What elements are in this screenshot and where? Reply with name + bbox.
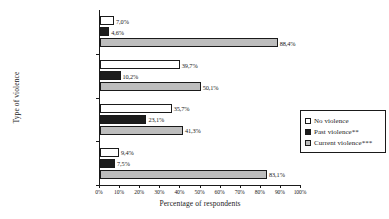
y-tick — [96, 141, 99, 142]
x-tick — [99, 185, 100, 188]
x-tick — [240, 185, 241, 188]
legend-label-current-violence: Current violence*** — [314, 139, 372, 147]
bar-value-label: 39,7% — [182, 61, 198, 70]
x-tick — [300, 185, 301, 188]
x-tick — [139, 185, 140, 188]
plot-area: 0%10%20%30%40%50%60%70%80%90%100% 7,0%4,… — [99, 10, 300, 185]
x-tick — [280, 185, 281, 188]
y-axis-title: Type of violence — [12, 38, 21, 158]
x-axis-title: Percentage of respondents — [99, 199, 301, 208]
legend-swatch-past-violence — [305, 129, 311, 135]
bar — [100, 115, 146, 124]
bar — [100, 104, 172, 113]
x-tick — [220, 185, 221, 188]
legend-label-no-violence: No violence — [314, 117, 349, 125]
bar-value-label: 41,3% — [185, 126, 201, 135]
legend-swatch-current-violence — [305, 140, 311, 146]
y-tick — [96, 185, 99, 186]
bar — [100, 159, 115, 168]
bar-value-label: 35,7% — [174, 104, 190, 113]
bar — [100, 16, 114, 25]
bar-value-label: 83,1% — [269, 170, 285, 179]
x-tick — [179, 185, 180, 188]
bar-chart-figure: Type of violence Percentage of responden… — [0, 0, 389, 219]
bar — [100, 71, 121, 80]
bar-value-label: 4,6% — [111, 28, 124, 37]
legend-item-current-violence: Current violence*** — [305, 137, 382, 148]
bar — [100, 82, 201, 91]
bar-value-label: 88,4% — [280, 39, 296, 48]
bar — [100, 126, 183, 135]
bar — [100, 60, 180, 69]
legend-item-no-violence: No violence — [305, 115, 382, 126]
bar — [100, 38, 278, 47]
legend-label-past-violence: Past violence** — [314, 128, 359, 136]
bar-value-label: 7,0% — [116, 17, 129, 26]
bar — [100, 148, 119, 157]
bar-value-label: 10,2% — [123, 72, 139, 81]
bar-value-label: 50,1% — [203, 83, 219, 92]
x-tick — [159, 185, 160, 188]
legend-swatch-no-violence — [305, 118, 311, 124]
bar-value-label: 7,5% — [117, 159, 130, 168]
bar — [100, 170, 267, 179]
x-tick — [119, 185, 120, 188]
x-tick — [260, 185, 261, 188]
bar-value-label: 9,4% — [121, 148, 134, 157]
x-tick — [200, 185, 201, 188]
y-tick — [96, 54, 99, 55]
bar — [100, 27, 109, 36]
legend-item-past-violence: Past violence** — [305, 126, 382, 137]
x-tick-label: 100% — [285, 189, 315, 195]
y-tick — [96, 98, 99, 99]
chart-legend: No violence Past violence** Current viol… — [300, 110, 386, 153]
bar-value-label: 23,1% — [148, 115, 164, 124]
